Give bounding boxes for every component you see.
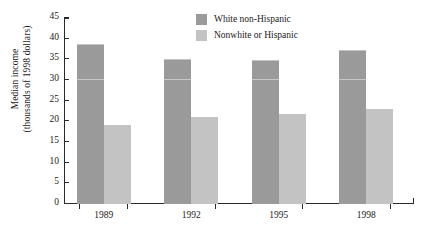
legend-entry-nonwhite-or-hispanic: Nonwhite or Hispanic: [196, 30, 298, 41]
x-tick: [390, 204, 391, 209]
y-tick: 0: [64, 203, 69, 204]
y-tick-label: 30: [37, 73, 59, 84]
bar-1989-white-non-hispanic: [77, 44, 104, 204]
legend-swatch-icon-dark: [196, 14, 207, 25]
y-tick: 20: [64, 120, 69, 121]
legend-label-nonwhite-or-hispanic: Nonwhite or Hispanic: [214, 30, 298, 41]
y-tick-label: 40: [37, 32, 59, 43]
y-tick: 10: [64, 162, 69, 163]
y-axis-line: [64, 18, 65, 204]
y-tick: 45: [64, 17, 69, 18]
y-tick-label: 5: [37, 176, 59, 187]
y-axis-title-line-2: (thousands of 1998 dollars): [22, 26, 34, 133]
y-axis-title: Median income (thousands of 1998 dollars…: [5, 0, 39, 159]
x-axis-label-1998: 1998: [346, 209, 386, 221]
x-tick: [302, 204, 303, 209]
y-tick-label: 45: [37, 11, 59, 22]
y-tick-label: 0: [37, 197, 59, 208]
x-axis-label-1989: 1989: [84, 209, 124, 221]
bar-scan-band: [164, 79, 191, 80]
y-tick-label: 20: [37, 114, 59, 125]
bar-scan-band: [252, 79, 279, 80]
y-tick: 15: [64, 141, 69, 142]
y-tick: 5: [64, 182, 69, 183]
y-tick-label: 35: [37, 52, 59, 63]
y-tick: 35: [64, 58, 69, 59]
y-axis-title-line-1: Median income: [10, 49, 22, 110]
y-tick-label: 25: [37, 94, 59, 105]
y-tick: 30: [64, 79, 69, 80]
bar-1995-nonwhite-or-hispanic: [279, 114, 306, 204]
bar-scan-band: [339, 79, 366, 80]
plot-area: 051015202530354045 1989199219951998: [64, 18, 414, 204]
y-tick: 25: [64, 100, 69, 101]
bar-scan-band: [77, 79, 104, 80]
y-tick-label: 10: [37, 156, 59, 167]
x-tick: [127, 204, 128, 209]
x-axis-right-cap: [413, 198, 414, 204]
x-tick: [215, 204, 216, 209]
chart-legend: White non-Hispanic Nonwhite or Hispanic: [196, 14, 298, 41]
legend-label-white-non-hispanic: White non-Hispanic: [214, 14, 291, 25]
legend-swatch-icon-light: [196, 30, 207, 41]
y-axis-top-cap: [64, 18, 69, 19]
x-tick: [79, 204, 80, 209]
x-axis-label-1992: 1992: [171, 209, 211, 221]
bar-1998-nonwhite-or-hispanic: [366, 109, 393, 204]
y-tick-label: 15: [37, 135, 59, 146]
bar-1998-white-non-hispanic: [339, 50, 366, 204]
bar-chart: Median income (thousands of 1998 dollars…: [0, 0, 427, 234]
bar-1992-nonwhite-or-hispanic: [191, 117, 218, 204]
y-tick: 40: [64, 38, 69, 39]
legend-entry-white-non-hispanic: White non-Hispanic: [196, 14, 298, 25]
bar-1995-white-non-hispanic: [252, 60, 279, 204]
x-axis-label-1995: 1995: [259, 209, 299, 221]
bar-1989-nonwhite-or-hispanic: [104, 125, 131, 204]
bar-1992-white-non-hispanic: [164, 59, 191, 204]
